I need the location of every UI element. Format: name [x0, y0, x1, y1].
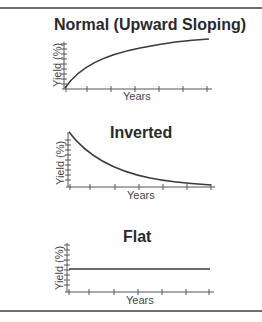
flat-chart-plot — [0, 0, 262, 310]
flat-yield-curve-panel: Flat Yield (%) Years — [0, 0, 262, 310]
bottom-divider — [0, 310, 262, 312]
